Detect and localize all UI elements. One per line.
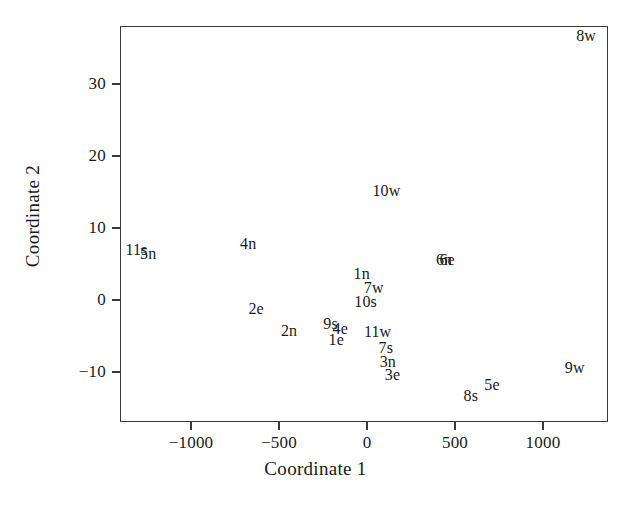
x-tick-mark bbox=[542, 422, 543, 430]
y-tick-label: 0 bbox=[42, 290, 106, 310]
x-tick-label: −1000 bbox=[146, 433, 236, 453]
y-axis-title: Coordinate 2 bbox=[22, 86, 44, 346]
x-tick-mark bbox=[366, 422, 367, 430]
scatter-point-label: 4n bbox=[240, 236, 256, 252]
scatter-point-label: 10s bbox=[354, 294, 377, 310]
x-tick-mark bbox=[190, 422, 191, 430]
scatter-point-label: 11w bbox=[364, 324, 391, 340]
scatter-plot-figure: −1000−50005001000 3020100−10 8w10w11s5n4… bbox=[0, 0, 631, 506]
scatter-point-label: 3e bbox=[385, 367, 400, 383]
x-tick-label: 1000 bbox=[498, 433, 588, 453]
x-tick-label: 500 bbox=[410, 433, 500, 453]
y-tick-mark bbox=[112, 227, 120, 228]
plot-area-frame bbox=[120, 26, 608, 422]
y-tick-mark bbox=[112, 155, 120, 156]
x-tick-mark bbox=[454, 422, 455, 430]
scatter-point-label: 2e bbox=[248, 301, 263, 317]
y-tick-label: −10 bbox=[42, 362, 106, 382]
y-tick-label: 20 bbox=[42, 146, 106, 166]
y-tick-mark bbox=[112, 371, 120, 372]
scatter-point-label: 6e bbox=[439, 252, 454, 268]
y-tick-mark bbox=[112, 299, 120, 300]
x-tick-label: 0 bbox=[322, 433, 412, 453]
scatter-point-label: 2n bbox=[281, 323, 297, 339]
y-tick-mark bbox=[112, 83, 120, 84]
scatter-point-label: 1e bbox=[329, 332, 344, 348]
scatter-point-label: 10w bbox=[372, 183, 400, 199]
y-tick-label: 10 bbox=[42, 218, 106, 238]
scatter-point-label: 9w bbox=[565, 360, 585, 376]
scatter-point-label: 5e bbox=[484, 377, 499, 393]
x-axis-title: Coordinate 1 bbox=[0, 458, 631, 480]
scatter-point-label: 8w bbox=[576, 28, 596, 44]
x-tick-label: −500 bbox=[234, 433, 324, 453]
y-tick-label: 30 bbox=[42, 74, 106, 94]
scatter-point-label: 5n bbox=[140, 246, 156, 262]
scatter-point-label: 8s bbox=[464, 388, 478, 404]
x-tick-mark bbox=[278, 422, 279, 430]
